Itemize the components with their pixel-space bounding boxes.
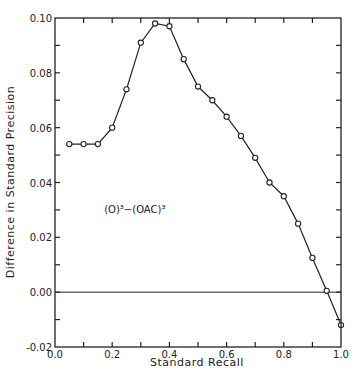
tick-labels: 0.00.20.40.60.81.0-0.020.000.020.040.060…	[26, 13, 349, 360]
data-point-marker	[110, 125, 115, 130]
series-annotation: (O)³−(OAC)³	[104, 204, 165, 215]
data-point-marker	[67, 142, 72, 147]
line-chart: 0.00.20.40.60.81.0-0.020.000.020.040.060…	[0, 0, 355, 378]
x-tick-label: 0.8	[276, 349, 292, 360]
y-tick-label: 0.08	[30, 68, 52, 79]
data-point-marker	[310, 255, 315, 260]
data-point-marker	[81, 142, 86, 147]
plot-frame	[55, 18, 341, 347]
axis-ticks	[55, 18, 341, 347]
data-markers	[67, 21, 344, 328]
data-point-marker	[324, 288, 329, 293]
x-tick-label: 0.2	[104, 349, 120, 360]
data-point-marker	[95, 142, 100, 147]
data-point-marker	[267, 180, 272, 185]
data-point-marker	[181, 57, 186, 62]
data-point-marker	[296, 221, 301, 226]
y-tick-label: 0.04	[30, 178, 52, 189]
y-axis-title: Difference in Standard Precision	[4, 86, 17, 279]
data-point-marker	[238, 133, 243, 138]
y-tick-label: 0.02	[30, 232, 52, 243]
data-point-marker	[210, 98, 215, 103]
x-axis-title: Standard Recall	[150, 356, 244, 369]
y-tick-label: 0.10	[30, 13, 52, 24]
data-point-marker	[124, 87, 129, 92]
y-tick-label: 0.00	[30, 287, 52, 298]
data-point-marker	[167, 24, 172, 29]
data-point-marker	[281, 194, 286, 199]
y-tick-label: 0.06	[30, 123, 52, 134]
y-tick-label: -0.02	[26, 342, 52, 353]
x-tick-label: 1.0	[333, 349, 349, 360]
data-point-marker	[138, 40, 143, 45]
data-point-marker	[153, 21, 158, 26]
data-point-marker	[224, 114, 229, 119]
data-series-line	[69, 23, 341, 325]
data-point-marker	[253, 155, 258, 160]
data-point-marker	[195, 84, 200, 89]
